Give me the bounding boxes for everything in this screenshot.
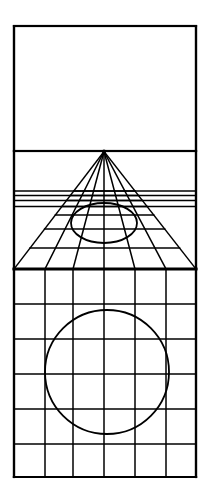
vanishing-point-dot xyxy=(102,150,106,154)
perspective-figure: One-point perspective construction diagr… xyxy=(0,0,209,499)
perspective-diagram: One-point perspective construction diagr… xyxy=(0,0,209,499)
